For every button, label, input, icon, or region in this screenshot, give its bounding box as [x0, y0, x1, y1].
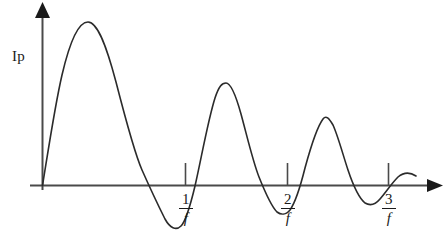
tick-label-2f-bar — [281, 208, 295, 209]
tick-label-2f-denominator: f — [281, 210, 295, 226]
damped-oscillation-figure: Ip 1 f 2 f 3 f — [0, 0, 446, 240]
damped-sine-curve — [43, 22, 417, 228]
tick-label-3f-denominator: f — [382, 210, 396, 226]
tick-label-2f: 2 f — [281, 192, 295, 226]
tick-label-1f-numerator: 1 — [179, 192, 193, 208]
plot-canvas — [0, 0, 446, 240]
y-axis-label: Ip — [12, 48, 25, 65]
y-axis-arrow-icon — [35, 2, 50, 18]
x-axis-arrow-icon — [427, 179, 443, 192]
tick-label-2f-numerator: 2 — [281, 192, 295, 208]
tick-label-3f-numerator: 3 — [382, 192, 396, 208]
tick-label-1f: 1 f — [179, 192, 193, 226]
tick-label-3f-bar — [382, 208, 396, 209]
tick-label-1f-bar — [179, 208, 193, 209]
tick-label-3f: 3 f — [382, 192, 396, 226]
tick-label-1f-denominator: f — [179, 210, 193, 226]
